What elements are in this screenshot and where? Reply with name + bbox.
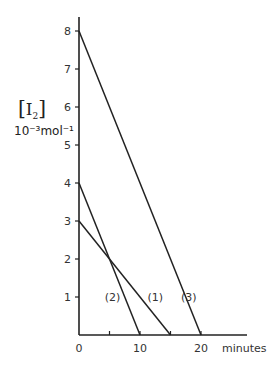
y-tick-label: 3 [64,215,71,228]
y-tick-label: 5 [64,139,71,152]
x-tick-label: 20 [194,342,208,355]
y-tick-label: 1 [64,291,71,304]
x-tick-label: 10 [133,342,147,355]
series-label: (1) [147,291,163,304]
y-axis-title: [I2] [18,96,46,121]
series-line [79,221,171,335]
y-tick-label: 7 [64,63,71,76]
y-tick-label: 2 [64,253,71,266]
series-line [79,31,201,335]
series-label: (2) [105,291,121,304]
y-axis-units: 10⁻³mol⁻¹ [14,124,74,138]
x-tick-label: 0 [76,342,83,355]
y-tick-label: 4 [64,177,71,190]
x-axis-title: minutes [222,342,267,355]
chart-plot: 1234567801020minutes(1)(2)(3) [0,0,274,371]
y-tick-label: 8 [64,25,71,38]
series-label: (3) [181,291,197,304]
series-line [79,183,140,335]
y-tick-label: 6 [64,101,71,114]
